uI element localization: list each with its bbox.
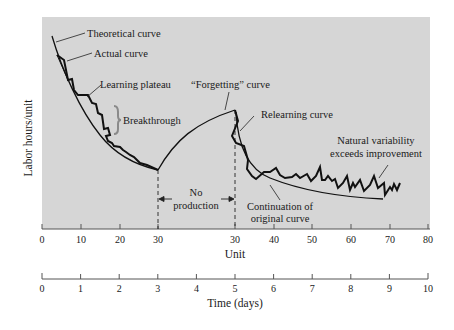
unit-tick: 10 xyxy=(76,234,86,245)
time-tick: 4 xyxy=(194,283,199,294)
unit-axis-tick-labels: 0 10 20 30 30 40 50 60 70 80 xyxy=(40,234,434,245)
y-axis-label: Labor hours/unit xyxy=(22,99,34,177)
unit-tick: 0 xyxy=(40,234,45,245)
label-no-production-1: No xyxy=(190,187,203,198)
time-axis-ticks xyxy=(42,273,428,279)
label-forgetting-curve: “Forgetting” curve xyxy=(191,79,270,90)
unit-tick: 30 xyxy=(153,234,163,245)
label-natural-variability-1: Natural variability xyxy=(337,135,415,146)
learning-curve-chart: Labor hours/unit 0 10 20 30 30 40 50 60 … xyxy=(0,0,454,330)
label-theoretical-curve: Theoretical curve xyxy=(87,28,161,39)
time-axis-label: Time (days) xyxy=(207,297,263,310)
time-tick: 3 xyxy=(155,283,160,294)
time-tick: 6 xyxy=(271,283,276,294)
unit-tick: 70 xyxy=(385,234,395,245)
unit-tick: 20 xyxy=(115,234,125,245)
label-learning-plateau: Learning plateau xyxy=(100,79,172,90)
time-tick: 9 xyxy=(387,283,392,294)
time-tick: 2 xyxy=(117,283,122,294)
time-tick: 10 xyxy=(423,283,433,294)
time-tick: 5 xyxy=(233,283,238,294)
label-continuation-2: original curve xyxy=(251,213,310,224)
unit-tick: 80 xyxy=(423,234,433,245)
unit-tick: 50 xyxy=(307,234,317,245)
label-natural-variability-2: exceeds improvement xyxy=(330,148,422,159)
time-tick: 0 xyxy=(40,283,45,294)
time-tick: 7 xyxy=(310,283,315,294)
time-axis-tick-labels: 0 1 2 3 4 5 6 7 8 9 10 xyxy=(40,283,434,294)
unit-tick: 40 xyxy=(269,234,279,245)
label-actual-curve: Actual curve xyxy=(94,48,148,59)
unit-tick: 30 xyxy=(230,234,240,245)
time-tick: 8 xyxy=(348,283,353,294)
time-tick: 1 xyxy=(78,283,83,294)
label-breakthrough: Breakthrough xyxy=(123,115,181,126)
unit-tick: 60 xyxy=(346,234,356,245)
label-relearning-curve: Relearning curve xyxy=(261,109,333,120)
label-no-production-2: production xyxy=(173,200,219,211)
unit-axis-label: Unit xyxy=(225,248,246,260)
label-continuation-1: Continuation of xyxy=(247,201,314,212)
